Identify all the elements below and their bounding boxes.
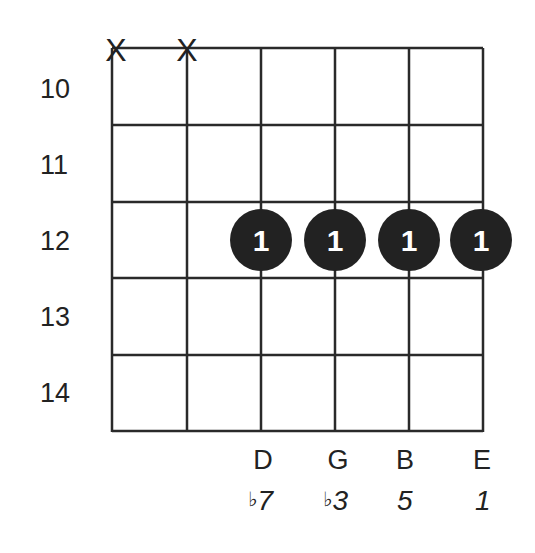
finger-markers: 1 1 1 1 — [230, 209, 512, 271]
fret-label-12: 12 — [40, 226, 70, 256]
finger-number: 1 — [401, 224, 418, 257]
interval-label: 5 — [397, 485, 413, 516]
interval-label: ♭7 — [248, 485, 274, 516]
fret-label-11: 11 — [40, 150, 68, 180]
finger-number: 1 — [253, 224, 270, 257]
flat-icon: ♭ — [248, 487, 257, 511]
muted-marks: X X — [105, 32, 197, 68]
flat-icon: ♭ — [323, 487, 332, 511]
muted-x-icon: X — [105, 32, 126, 68]
note-label: B — [396, 445, 414, 475]
finger-dot: 1 — [378, 209, 440, 271]
finger-dot: 1 — [304, 209, 366, 271]
finger-number: 1 — [327, 224, 344, 257]
fret-label-13: 13 — [40, 302, 70, 332]
interval-label: 1 — [475, 485, 491, 516]
interval-labels: ♭7 ♭3 5 1 — [248, 485, 491, 516]
interval-label: ♭3 — [323, 485, 348, 516]
note-label: G — [327, 445, 348, 475]
muted-x-icon: X — [176, 32, 197, 68]
chord-diagram: X X 10 11 12 13 14 1 1 1 1 D G B E — [0, 0, 535, 553]
finger-number: 1 — [473, 224, 490, 257]
note-label: D — [253, 445, 273, 475]
fret-numbers: 10 11 12 13 14 — [40, 74, 70, 408]
finger-dot: 1 — [450, 209, 512, 271]
note-names: D G B E — [253, 445, 491, 475]
finger-dot: 1 — [230, 209, 292, 271]
note-label: E — [473, 445, 491, 475]
fret-label-14: 14 — [40, 378, 70, 408]
fret-label-10: 10 — [40, 74, 70, 104]
